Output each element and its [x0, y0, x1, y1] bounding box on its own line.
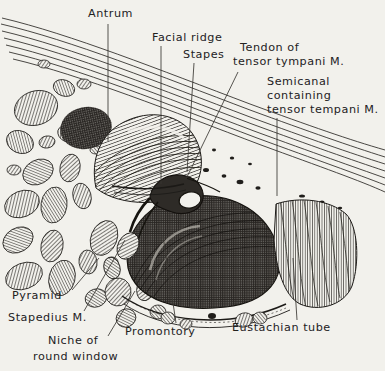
label-tendon-line2: tensor tympani M. [233, 55, 344, 68]
label-antrum: Antrum [88, 7, 133, 20]
label-eustachian: Eustachian tube [232, 321, 331, 334]
label-niche-line2: round window [33, 350, 118, 363]
label-facial-ridge: Facial ridge [152, 31, 222, 44]
label-stapedius: Stapedius M. [8, 311, 87, 324]
label-tendon-line1: Tendon of [239, 41, 300, 54]
label-niche-line1: Niche of [48, 334, 99, 347]
label-semicanal-line1: Semicanal [267, 75, 330, 88]
label-pyramid: Pyramid [12, 289, 62, 302]
label-stapes: Stapes [183, 48, 224, 61]
label-semicanal-line3: tensor tempani M. [267, 103, 379, 116]
illustration-plate: Antrum Facial ridge Stapes Tendon of ten… [0, 0, 385, 371]
anatomical-figure: Antrum Facial ridge Stapes Tendon of ten… [0, 0, 385, 371]
label-semicanal-line2: containing [267, 89, 331, 102]
label-promontory: Promontory [125, 325, 196, 338]
